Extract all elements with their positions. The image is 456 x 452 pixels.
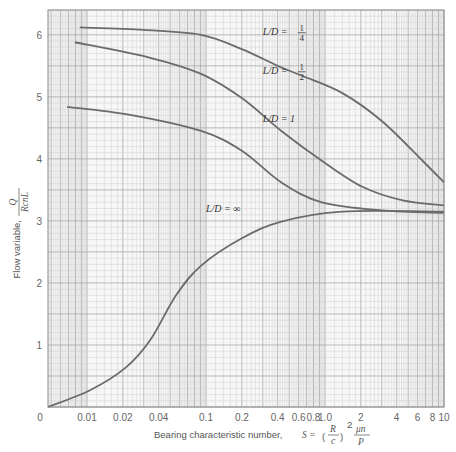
chart: 0.010.020.040.10.20.40.60.81.02468100 12… <box>0 0 456 452</box>
y-tick-label: 3 <box>36 216 42 227</box>
x-tick-label: 0.04 <box>149 412 169 423</box>
curve-label: L/D = <box>262 65 288 76</box>
x-axis-title: Bearing characteristic number, S = ( R c… <box>154 419 370 447</box>
paren-close: ) <box>340 431 343 442</box>
curve-label-numerator: 1 <box>300 23 305 33</box>
x-tick-label: 10 <box>438 412 450 423</box>
paren-open: ( <box>322 431 326 442</box>
frac-mun: μn <box>355 424 366 434</box>
y-axis-title: Flow variable, Q RcnL <box>8 188 30 279</box>
x-tick-label: 0.4 <box>271 412 285 423</box>
x-tick-label: 1.0 <box>318 412 332 423</box>
y-tick-label: 1 <box>36 340 42 351</box>
x-axis-title-text: Bearing characteristic number, <box>154 429 282 440</box>
y-tick-label: 5 <box>36 92 42 103</box>
x-tick-label: 0.01 <box>77 412 97 423</box>
x-axis-formula-s: S = <box>302 430 316 440</box>
x-tick-label: 4 <box>394 412 400 423</box>
x-tick-label: 0.6 <box>292 412 306 423</box>
curve-label-numerator: 1 <box>300 62 305 72</box>
origin-label: 0 <box>37 412 43 423</box>
x-tick-label: 8 <box>430 412 436 423</box>
frac-r: R <box>329 424 336 434</box>
curve-label-denominator: 4 <box>300 33 305 43</box>
y-tick-labels: 123456 <box>36 30 42 351</box>
curve-label: L/D = <box>262 26 288 37</box>
y-axis-title-numerator: Q <box>8 198 18 205</box>
exponent-2: 2 <box>347 419 352 430</box>
frac-p: P <box>357 437 364 447</box>
x-tick-label: 0.02 <box>113 412 133 423</box>
y-tick-label: 2 <box>36 278 42 289</box>
x-tick-label: 6 <box>415 412 421 423</box>
x-tick-label: 0.1 <box>199 412 213 423</box>
x-tick-labels: 0.010.020.040.10.20.40.60.81.02468100 <box>37 412 450 423</box>
frac-c: c <box>331 436 336 446</box>
x-tick-label: 0.2 <box>235 412 249 423</box>
curve-label: L/D = ∞ <box>205 203 240 214</box>
y-tick-label: 6 <box>36 30 42 41</box>
curve-label: L/D = 1 <box>262 113 295 124</box>
x-tick-label: 2 <box>358 412 364 423</box>
y-tick-label: 4 <box>36 154 42 165</box>
y-axis-title-text: Flow variable, <box>11 220 22 279</box>
curve-label-denominator: 2 <box>300 72 305 82</box>
y-axis-title-denominator: RcnL <box>20 192 30 213</box>
